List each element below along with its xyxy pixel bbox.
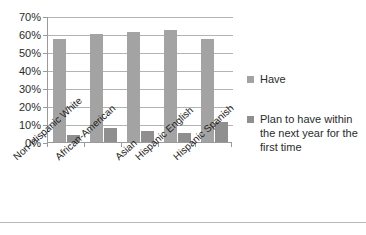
- x-axis-tick: [47, 143, 48, 147]
- y-axis-tick-label: 70%: [3, 12, 41, 23]
- y-axis-tick-label: 60%: [3, 30, 41, 41]
- legend-label: Plan to have within the next year for th…: [260, 112, 363, 154]
- y-axis-tick-label: 10%: [3, 120, 41, 131]
- y-axis-tick-label: 50%: [3, 48, 41, 59]
- bar-have: [127, 32, 140, 142]
- gridline: [48, 35, 233, 36]
- y-axis-tick-label: 20%: [3, 102, 41, 113]
- legend-label: Have: [260, 72, 286, 86]
- legend-item-have[interactable]: Have: [247, 72, 363, 86]
- x-axis-tick: [84, 143, 85, 147]
- y-axis-labels: 70% 60% 50% 40% 30% 20% 10% 0%: [0, 0, 41, 235]
- x-axis-tick: [231, 143, 232, 147]
- y-axis-tick-label: 40%: [3, 66, 41, 77]
- legend-swatch-icon: [247, 116, 254, 123]
- bar-plan: [104, 128, 117, 142]
- y-axis-tick-label: 30%: [3, 84, 41, 95]
- bar-chart: 70% 60% 50% 40% 30% 20% 10% 0%: [0, 0, 366, 235]
- footer-area: [0, 223, 366, 235]
- gridline: [48, 17, 233, 18]
- legend-swatch-icon: [247, 76, 254, 83]
- legend-item-plan-to-have[interactable]: Plan to have within the next year for th…: [247, 112, 363, 154]
- legend: Have Plan to have within the next year f…: [247, 72, 363, 180]
